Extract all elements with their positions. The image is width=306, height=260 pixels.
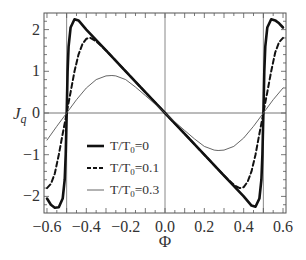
x-tick-label: −0.2 bbox=[111, 218, 140, 235]
x-tick-label: −0.4 bbox=[72, 218, 101, 235]
x-tick-label: 0.6 bbox=[273, 218, 293, 235]
y-tick-label: 0 bbox=[32, 104, 40, 121]
y-tick-label: −1 bbox=[23, 146, 40, 163]
line-chart: −0.6−0.4−0.20.00.20.40.6 −2−1012 Jq Φ T/… bbox=[0, 0, 306, 260]
x-tick-label: 0.4 bbox=[234, 218, 254, 235]
legend-label: T/T0=0.3 bbox=[110, 182, 159, 199]
x-tick-label: −0.6 bbox=[32, 218, 61, 235]
x-tick-label: 0.2 bbox=[194, 218, 214, 235]
legend: T/T0=0T/T0=0.1T/T0=0.3 bbox=[87, 138, 159, 199]
y-tick-label: 2 bbox=[32, 21, 40, 38]
y-tick-label: 1 bbox=[32, 62, 40, 79]
y-axis-title: Jq bbox=[13, 104, 27, 126]
legend-label: T/T0=0.1 bbox=[110, 160, 159, 177]
legend-label: T/T0=0 bbox=[110, 138, 149, 155]
x-axis-title: Φ bbox=[159, 232, 171, 251]
y-tick-label: −2 bbox=[23, 187, 40, 204]
